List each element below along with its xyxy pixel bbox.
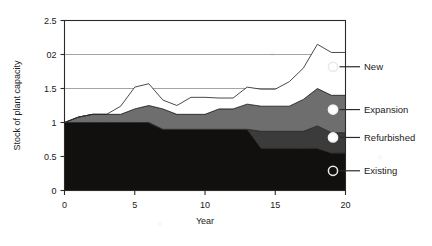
chart-figure: 00.511.5022.505101520YearStock of plant … — [0, 0, 432, 246]
y-tick-label-2.5: 2.5 — [44, 16, 57, 26]
y-tick-label-1: 1 — [51, 118, 56, 128]
legend-label-existing: Existing — [364, 165, 397, 176]
x-tick-label-0: 0 — [62, 200, 67, 210]
legend-label-refurbished: Refurbished — [364, 132, 415, 143]
y-tick-label-0.5: 0.5 — [44, 152, 57, 162]
legend-marker-refurbished-icon — [328, 133, 337, 142]
y-axis-title: Stock of plant capacity — [12, 60, 22, 151]
y-tick-label-02: 02 — [46, 50, 56, 60]
legend-marker-expansion-icon — [328, 105, 337, 114]
y-tick-label-0: 0 — [51, 186, 56, 196]
legend-label-expansion: Expansion — [364, 104, 408, 115]
legend-label-new: New — [364, 61, 383, 72]
y-tick-label-1.5: 1.5 — [44, 84, 57, 94]
x-tick-label-15: 15 — [270, 200, 280, 210]
x-tick-label-5: 5 — [132, 200, 137, 210]
stacked-area-chart: 00.511.5022.505101520YearStock of plant … — [0, 0, 432, 246]
x-tick-label-10: 10 — [200, 200, 210, 210]
x-axis-title: Year — [196, 216, 214, 226]
x-tick-label-20: 20 — [340, 200, 350, 210]
